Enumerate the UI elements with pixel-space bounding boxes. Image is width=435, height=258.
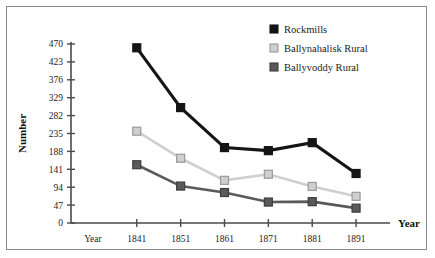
x-tick-label: 1891 (347, 234, 366, 244)
data-point-marker (133, 161, 141, 169)
y-tick-label: 235 (49, 129, 64, 139)
line-chart: RockmillsBallynahalisk RuralBallyvoddy R… (0, 0, 435, 258)
series-ballyvoddy-rural (133, 161, 360, 212)
y-tick-label: 376 (49, 75, 64, 85)
legend-swatch (270, 63, 278, 71)
series-line (137, 165, 356, 208)
x-tick-label: Year (84, 234, 102, 244)
legend-label: Ballynahalisk Rural (284, 43, 368, 54)
chart-page: RockmillsBallynahalisk RuralBallyvoddy R… (0, 0, 435, 258)
data-point-marker (264, 170, 272, 178)
data-point-marker (133, 127, 141, 135)
series-line (137, 131, 356, 196)
data-point-marker (264, 198, 272, 206)
y-axis-title: Number (16, 114, 28, 153)
data-point-marker (264, 147, 272, 155)
data-point-marker (352, 204, 360, 212)
data-point-marker (221, 189, 229, 197)
y-tick-label: 0 (58, 218, 63, 228)
y-tick-label: 141 (49, 165, 64, 175)
series-ballynahalisk-rural (133, 127, 360, 200)
data-point-marker (133, 44, 141, 52)
data-point-marker (177, 182, 185, 190)
x-tick-label: 1861 (215, 234, 234, 244)
legend-swatch (270, 44, 278, 52)
legend-label: Ballyvoddy Rural (284, 62, 359, 73)
x-axis-title: Year (398, 217, 420, 229)
data-point-marker (308, 139, 316, 147)
data-point-marker (352, 192, 360, 200)
y-tick-label: 282 (49, 111, 64, 121)
x-tick-label: 1871 (259, 234, 278, 244)
y-tick-label: 470 (49, 39, 64, 49)
data-point-marker (221, 144, 229, 152)
legend-layer: RockmillsBallynahalisk RuralBallyvoddy R… (270, 24, 368, 73)
legend-swatch (270, 25, 278, 33)
data-point-marker (308, 198, 316, 206)
y-tick-label: 94 (54, 183, 64, 193)
legend-item: Ballynahalisk Rural (270, 43, 368, 54)
y-tick-label: 188 (49, 147, 64, 157)
x-tick-label: 1881 (303, 234, 322, 244)
data-point-marker (177, 104, 185, 112)
data-point-marker (308, 182, 316, 190)
data-point-marker (177, 154, 185, 162)
legend-item: Ballyvoddy Rural (270, 62, 359, 73)
data-point-marker (221, 176, 229, 184)
y-tick-label: 423 (49, 57, 64, 67)
legend-item: Rockmills (270, 24, 327, 35)
y-tick-label: 329 (49, 93, 64, 103)
x-tick-label: 1851 (171, 234, 190, 244)
y-tick-label: 47 (54, 201, 64, 211)
data-point-marker (352, 169, 360, 177)
x-tick-label: 1841 (127, 234, 146, 244)
legend-label: Rockmills (284, 24, 327, 35)
